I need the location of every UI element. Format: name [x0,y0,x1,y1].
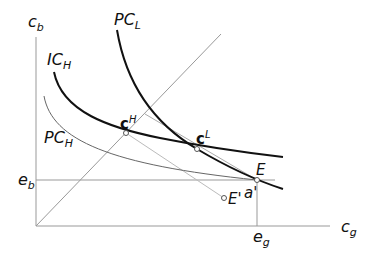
line-cH-to-Eprime [126,133,224,198]
pc-h-label: PCH [44,128,73,150]
cH-label: cH [120,114,137,133]
economics-diagram: cb cg eb eg PCL ICH PCH cH cL E E' a' [0,0,376,255]
cL-label: cL [196,129,210,148]
y-axis-label: cb [28,12,44,34]
eg-label: eg [253,227,270,249]
point-E-prime [222,196,227,201]
eb-label: eb [18,170,35,192]
pc-l-label: PCL [114,10,141,32]
x-axis-label: cg [341,217,357,239]
E-prime-label: E' [228,190,242,208]
E-label: E [256,161,266,179]
a-prime-label: a' [244,184,257,202]
ic-h-label: ICH [47,50,71,72]
